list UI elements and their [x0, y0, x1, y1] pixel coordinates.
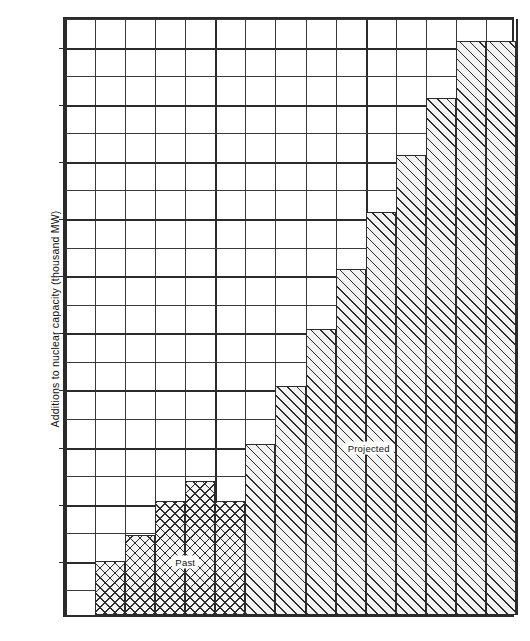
horizontal-gridline-minor: [65, 76, 512, 77]
y-tick-mark: [59, 105, 65, 106]
vertical-gridline: [516, 19, 518, 615]
y-tick-mark: [59, 505, 65, 506]
bar-projected-1986: [396, 155, 426, 615]
y-tick-mark: [59, 162, 65, 163]
bar-projected-1981: [245, 444, 275, 615]
y-tick-mark: [59, 562, 65, 563]
bar-past-1976: [95, 561, 125, 615]
horizontal-gridline-minor: [65, 19, 512, 20]
vertical-gridline: [125, 19, 126, 615]
bar-past-1980: [215, 501, 245, 615]
annotation-past: Past: [170, 555, 200, 568]
nuclear-capacity-additions-chart: PastProjected 10,0009,0008,0007,0006,000…: [0, 0, 530, 641]
vertical-gridline: [95, 19, 96, 615]
horizontal-gridline-major: [65, 48, 512, 50]
y-tick-mark: [59, 48, 65, 49]
annotation-projected: Projected: [343, 441, 395, 454]
bar-projected-1987: [426, 98, 456, 615]
y-tick-mark: [59, 448, 65, 449]
bar-projected-1982: [275, 386, 305, 615]
bar-projected-1983: [306, 329, 336, 615]
bar-projected-1985: [366, 212, 396, 615]
bar-projected-1988: [456, 41, 486, 615]
y-axis-label: Additions to nuclear capacity (thousand …: [49, 211, 61, 428]
bar-past-1979: [185, 481, 215, 615]
bar-past-1977: [125, 535, 155, 615]
bar-projected-1989: [486, 41, 516, 615]
vertical-gridline: [65, 19, 67, 615]
plot-area: PastProjected 10,0009,0008,0007,0006,000…: [63, 17, 514, 617]
